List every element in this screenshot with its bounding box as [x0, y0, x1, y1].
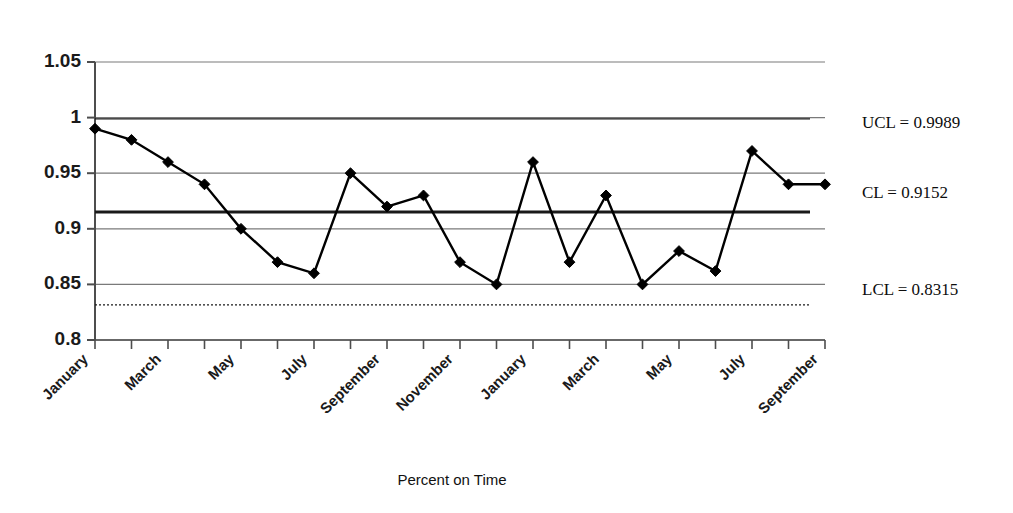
data-point-marker [309, 268, 320, 279]
x-tick-label: July [715, 350, 749, 384]
control-limit-lines [95, 119, 810, 305]
x-axis [95, 340, 825, 349]
data-point-marker [491, 279, 502, 290]
x-tick-labels: JanuaryMarchMayJulySeptemberNovemberJanu… [38, 350, 821, 417]
ucl-label: UCL = 0.9989 [862, 113, 960, 132]
y-tick-label: 1 [70, 106, 81, 127]
y-tick-label: 0.9 [55, 217, 81, 238]
data-point-marker [418, 190, 429, 201]
x-tick-label: September [754, 350, 821, 417]
data-point-marker [90, 123, 101, 134]
y-axis [87, 62, 95, 340]
x-tick-label: March [121, 350, 164, 393]
cl-label: CL = 0.9152 [862, 183, 948, 202]
x-tick-label: March [559, 350, 602, 393]
y-tick-labels: 1.0510.950.90.850.8 [44, 50, 81, 349]
gridlines [95, 62, 825, 340]
data-point-marker [710, 266, 721, 277]
x-tick-label: May [204, 350, 237, 383]
data-point-marker [528, 157, 539, 168]
control-chart: 1.0510.950.90.850.8 JanuaryMarchMayJulyS… [0, 0, 1013, 513]
x-tick-label: May [642, 350, 675, 383]
data-point-marker [564, 257, 575, 268]
data-point-marker [455, 257, 466, 268]
y-tick-label: 0.95 [44, 161, 81, 182]
x-tick-label: July [277, 350, 311, 384]
x-axis-title: Percent on Time [397, 471, 506, 488]
x-tick-label: September [316, 350, 383, 417]
y-tick-label: 0.8 [55, 328, 81, 349]
x-tick-label: January [38, 350, 91, 403]
data-point-marker [820, 179, 831, 190]
control-limit-labels: UCL = 0.9989CL = 0.9152LCL = 0.8315 [862, 113, 960, 299]
data-point-marker [601, 190, 612, 201]
chart-canvas: 1.0510.950.90.850.8 JanuaryMarchMayJulyS… [0, 0, 1013, 513]
data-point-marker [126, 134, 137, 145]
y-tick-label: 1.05 [44, 50, 81, 71]
y-tick-label: 0.85 [44, 272, 81, 293]
x-tick-label: January [476, 350, 529, 403]
series-markers [90, 123, 831, 289]
x-tick-label: November [392, 350, 456, 414]
lcl-label: LCL = 0.8315 [862, 280, 958, 299]
data-point-marker [163, 157, 174, 168]
